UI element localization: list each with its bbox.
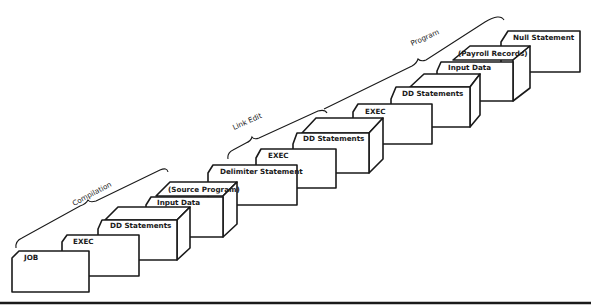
phase-label-program: Program	[409, 27, 440, 48]
card-label: DD Statements	[110, 221, 171, 230]
phase-label-compilation: Compilation	[71, 180, 113, 208]
card-label: (Source Program)	[168, 185, 240, 194]
card-label: EXEC	[365, 107, 386, 116]
card-label: Delimiter Statement	[220, 167, 303, 176]
card-label: DD Statements	[303, 134, 364, 143]
card-label: JOB	[23, 253, 38, 262]
card-label: EXEC	[73, 237, 94, 246]
card-label: Null Statement	[513, 33, 575, 42]
card-job: JOB	[12, 251, 89, 292]
card-label: DD Statements	[402, 89, 463, 98]
card-label: Input Data	[157, 198, 200, 207]
card-label: Input Data	[448, 63, 491, 72]
card-label: (Payroll Records)	[458, 49, 527, 58]
phase-label-link-edit: Link Edit	[231, 111, 263, 132]
job-stream-diagram: Compilation Link Edit Program Null State…	[0, 0, 591, 307]
card-label: EXEC	[268, 151, 289, 160]
